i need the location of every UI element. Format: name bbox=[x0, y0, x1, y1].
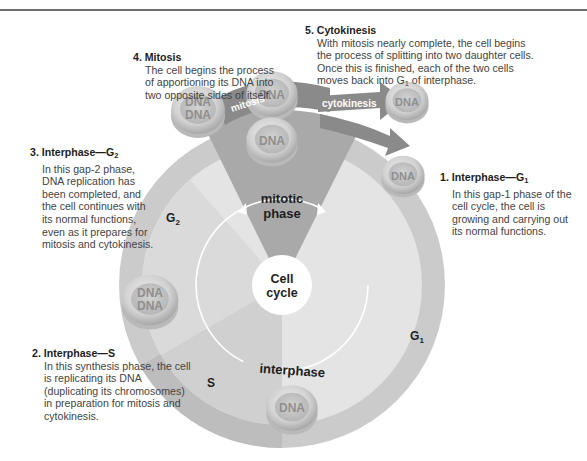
callout-body: The cell begins the process of apportion… bbox=[133, 64, 283, 102]
callout-title: Mitosis bbox=[145, 51, 182, 63]
mitotic-phase-label: phase bbox=[263, 206, 301, 221]
cell-cycle-label: Cell bbox=[271, 272, 294, 286]
cell-cycle-label: cycle bbox=[266, 286, 297, 300]
dna-label: DNA bbox=[279, 401, 305, 415]
dna-label: DNA bbox=[137, 286, 163, 300]
dna-label: DNA bbox=[391, 170, 415, 182]
dna-label: DNA bbox=[259, 134, 285, 148]
callout-body: In this synthesis phase, the cell is rep… bbox=[32, 360, 192, 423]
s-label: S bbox=[207, 376, 215, 390]
callout-title: Interphase—S bbox=[44, 347, 115, 359]
callout-interphase-g1: 1. Interphase—G1 In this gap-1 phase of … bbox=[440, 171, 580, 238]
dna-label: DNA bbox=[137, 299, 163, 313]
callout-title: Interphase—G2 bbox=[42, 146, 119, 158]
callout-body: In this gap-2 phase, DNA replication has… bbox=[30, 163, 155, 251]
dna-label: DNA bbox=[395, 96, 419, 108]
callout-cytokinesis: 5. Cytokinesis With mitosis nearly compl… bbox=[305, 24, 535, 91]
cytokinesis-arrow-label: cytokinesis bbox=[322, 98, 377, 109]
mitotic-phase-label: mitotic bbox=[261, 191, 304, 206]
callout-body: With mitosis nearly complete, the cell b… bbox=[305, 37, 535, 91]
callout-body: In this gap-1 phase of the cell cycle, t… bbox=[440, 188, 580, 238]
callout-title: Interphase—G1 bbox=[452, 171, 529, 183]
callout-mitosis: 4. Mitosis The cell begins the process o… bbox=[133, 51, 283, 101]
callout-interphase-s: 2. Interphase—S In this synthesis phase,… bbox=[32, 347, 192, 423]
callout-interphase-g2: 3. Interphase—G2 In this gap-2 phase, DN… bbox=[30, 146, 155, 251]
callout-title: Cytokinesis bbox=[317, 24, 376, 36]
dna-label: DNA bbox=[185, 108, 211, 122]
